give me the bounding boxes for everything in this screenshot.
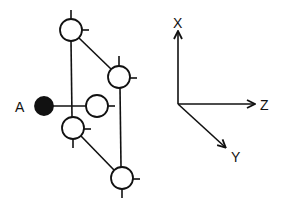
atom-open-left-lower xyxy=(62,117,84,139)
atom-open-right-upper xyxy=(108,66,130,88)
atoms xyxy=(35,19,133,189)
atom-filled-A xyxy=(35,97,53,115)
atom-open-bottom-right xyxy=(111,167,133,189)
bond-left-lower-to-bottom-right xyxy=(81,136,114,170)
bond-top-to-right-upper xyxy=(79,38,111,69)
bond-right-upper-to-bottom-right xyxy=(120,88,121,167)
y-axis-label: Y xyxy=(231,149,241,165)
diagram-canvas: A X Z Y xyxy=(0,0,282,210)
z-axis-label: Z xyxy=(260,97,269,113)
y-axis-arrow xyxy=(178,104,225,147)
atom-open-top xyxy=(60,19,82,41)
coordinate-axes xyxy=(178,32,254,147)
atom-label-A: A xyxy=(15,99,25,115)
molecule-and-axes-figure: A X Z Y xyxy=(0,0,282,210)
x-axis-label: X xyxy=(173,15,183,31)
atom-open-middle xyxy=(86,95,108,117)
